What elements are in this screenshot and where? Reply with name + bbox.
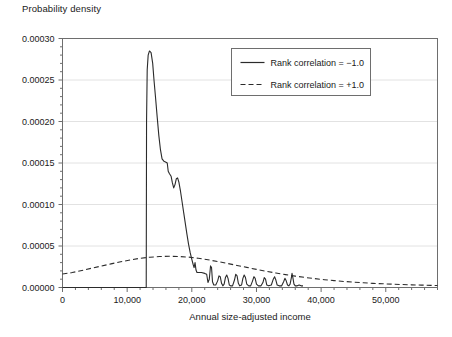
x-tick-label: 10,000 [113, 295, 141, 305]
x-axis-title: Annual size-adjusted income [189, 311, 310, 322]
y-axis-ticks [59, 39, 63, 288]
legend-label-2: Rank correlation = +1.0 [271, 80, 365, 90]
legend-label-1: Rank correlation = −1.0 [271, 58, 365, 68]
y-tick-label: 0.00020 [22, 117, 55, 127]
x-axis-ticks [63, 288, 438, 293]
x-tick-label: 20,000 [178, 295, 206, 305]
x-tick-label: 40,000 [307, 295, 335, 305]
x-tick-label: 50,000 [372, 295, 400, 305]
x-axis-tick-labels: 010,00020,00030,00040,00050,000 [60, 295, 400, 305]
y-tick-label: 0.00030 [22, 34, 55, 44]
x-tick-label: 30,000 [243, 295, 271, 305]
y-tick-label: 0.00025 [22, 75, 55, 85]
series-line-2 [63, 256, 438, 285]
y-tick-label: 0.00000 [22, 283, 55, 293]
chart-figure: Probability density 0.000000.000050.0001… [0, 0, 452, 337]
y-axis-tick-labels: 0.000000.000050.000100.000150.000200.000… [22, 34, 55, 293]
y-tick-label: 0.00005 [22, 241, 55, 251]
y-tick-label: 0.00015 [22, 158, 55, 168]
y-tick-label: 0.00010 [22, 200, 55, 210]
legend: Rank correlation = −1.0Rank correlation … [232, 49, 371, 96]
probability-density-chart: 0.000000.000050.000100.000150.000200.000… [0, 0, 452, 337]
x-tick-label: 0 [60, 295, 65, 305]
